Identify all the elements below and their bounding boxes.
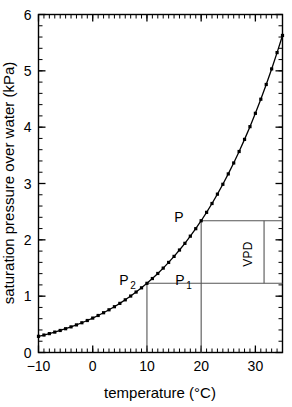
- y-tick-label: 6: [24, 7, 32, 23]
- data-point-marker: [118, 302, 121, 305]
- data-point-marker: [91, 316, 94, 319]
- data-point-marker: [254, 112, 257, 115]
- data-point-marker: [129, 294, 132, 297]
- data-point-marker: [178, 248, 181, 251]
- annotation-p2-subscript: 2: [130, 280, 136, 291]
- y-tick-label: 0: [24, 345, 32, 361]
- data-point-marker: [145, 282, 148, 285]
- y-tick-label: 3: [24, 176, 32, 192]
- data-point-marker: [238, 150, 241, 153]
- y-tick-label: 1: [24, 288, 32, 304]
- data-point-marker: [140, 286, 143, 289]
- data-point-marker: [124, 298, 127, 301]
- data-point-marker: [113, 305, 116, 308]
- saturation-pressure-chart: −100102030 0123456 P P 1 P 2 VPD tempera…: [0, 0, 292, 407]
- data-point-marker: [194, 227, 197, 230]
- data-point-marker: [227, 172, 230, 175]
- data-point-marker: [232, 161, 235, 164]
- data-point-marker: [248, 125, 251, 128]
- y-tick-label: 5: [24, 63, 32, 79]
- data-point-marker: [221, 183, 224, 186]
- data-point-marker: [59, 329, 62, 332]
- x-tick-label: 30: [248, 358, 264, 374]
- data-point-marker: [200, 219, 203, 222]
- annotation-p-label: P: [174, 209, 183, 225]
- data-point-marker: [80, 321, 83, 324]
- annotation-p: P: [174, 209, 183, 225]
- data-point-marker: [162, 267, 165, 270]
- data-point-marker: [281, 34, 284, 37]
- data-point-marker: [97, 314, 100, 317]
- data-point-marker: [210, 202, 213, 205]
- data-point-marker: [243, 138, 246, 141]
- data-point-marker: [216, 193, 219, 196]
- data-point-marker: [172, 255, 175, 258]
- chart-background: [0, 0, 292, 407]
- annotation-p1-subscript: 1: [186, 280, 192, 291]
- vpd-label: VPD: [241, 241, 255, 267]
- data-point-marker: [275, 51, 278, 54]
- data-point-marker: [37, 335, 40, 338]
- chart-figure: −100102030 0123456 P P 1 P 2 VPD tempera…: [0, 0, 292, 407]
- data-point-marker: [42, 333, 45, 336]
- data-point-marker: [151, 277, 154, 280]
- y-axis-title: saturation pressure over water (kPa): [0, 62, 17, 305]
- data-point-marker: [205, 211, 208, 214]
- data-point-marker: [167, 261, 170, 264]
- x-tick-label: 0: [89, 358, 97, 374]
- data-point-marker: [259, 98, 262, 101]
- data-point-marker: [156, 272, 159, 275]
- x-axis-title: temperature (°C): [104, 384, 216, 401]
- data-point-marker: [75, 323, 78, 326]
- data-point-marker: [69, 325, 72, 328]
- data-point-marker: [64, 327, 67, 330]
- data-point-marker: [53, 331, 56, 334]
- data-point-marker: [265, 83, 268, 86]
- y-tick-label: 4: [24, 119, 32, 135]
- x-tick-label: 10: [139, 358, 155, 374]
- data-point-marker: [107, 308, 110, 311]
- annotation-p2-label: P: [119, 272, 128, 288]
- data-point-marker: [270, 67, 273, 70]
- x-tick-label: 20: [193, 358, 209, 374]
- data-point-marker: [189, 235, 192, 238]
- data-point-marker: [86, 319, 89, 322]
- data-point-marker: [102, 311, 105, 314]
- data-point-marker: [48, 332, 51, 335]
- y-tick-label: 2: [24, 232, 32, 248]
- data-point-marker: [183, 242, 186, 245]
- annotation-p1-label: P: [175, 272, 184, 288]
